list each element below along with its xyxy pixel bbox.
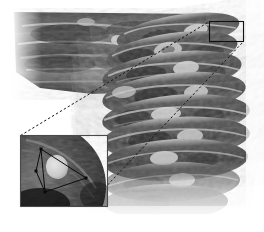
caliper-marker[interactable] — [85, 177, 88, 180]
figure-canvas — [0, 0, 264, 232]
caliper-marker[interactable] — [44, 191, 47, 194]
caliper-marker[interactable] — [35, 170, 38, 173]
medical-imaging-figure — [0, 0, 264, 232]
caliper-marker[interactable] — [40, 148, 43, 151]
